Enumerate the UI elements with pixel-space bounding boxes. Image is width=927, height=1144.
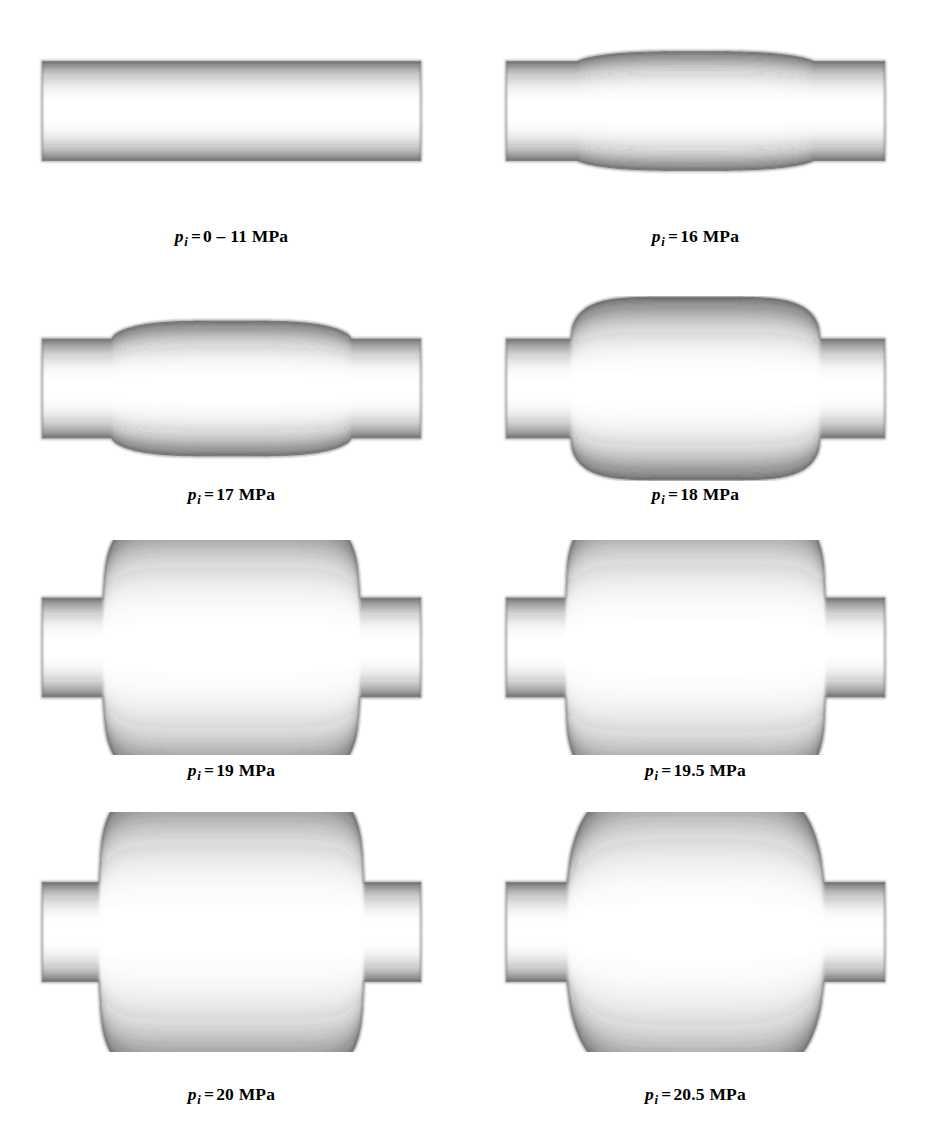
pressure-label-p17: pi=17 MPa <box>0 486 463 506</box>
pressure-unit: MPa <box>239 484 276 504</box>
tube-render-p20 <box>0 812 463 1052</box>
pressure-label-p205: pi=20.5 MPa <box>464 1086 927 1106</box>
pressure-value: 16 <box>680 226 698 246</box>
bulge-panel-p19 <box>0 540 463 755</box>
equals-sign: = <box>667 226 680 246</box>
equals-sign: = <box>190 226 203 246</box>
pressure-symbol: p <box>652 484 661 504</box>
tube-render-p17 <box>0 296 463 481</box>
equals-sign: = <box>203 484 216 504</box>
pressure-unit: MPa <box>703 226 740 246</box>
pressure-symbol: p <box>188 1084 197 1104</box>
tube-stage-p205 <box>464 812 927 1052</box>
tube-render-p18 <box>464 296 927 481</box>
tube-stage-p19 <box>0 540 463 755</box>
tube-stage-p16 <box>464 36 927 186</box>
pressure-label-p16: pi=16 MPa <box>464 228 927 248</box>
pressure-unit: MPa <box>239 760 276 780</box>
bulge-panel-p16 <box>464 36 927 186</box>
pressure-value: 0 – 11 <box>203 226 247 246</box>
tube-render-p205 <box>464 812 927 1052</box>
pressure-value: 17 <box>216 484 234 504</box>
tube-render-p195 <box>464 540 927 755</box>
tube-render-p0 <box>0 36 463 186</box>
tube-stage-p20 <box>0 812 463 1052</box>
pressure-value: 20.5 <box>673 1084 704 1104</box>
pressure-label-p18: pi=18 MPa <box>464 486 927 506</box>
bulge-panel-p0 <box>0 36 463 186</box>
pressure-unit: MPa <box>252 226 289 246</box>
figure-tube-bulge-grid: pi=0 – 11 MPa pi=16 MPa <box>0 0 927 1144</box>
pressure-symbol: p <box>652 226 661 246</box>
equals-sign: = <box>660 760 673 780</box>
pressure-label-p195: pi=19.5 MPa <box>464 762 927 782</box>
tube-stage-p0 <box>0 36 463 186</box>
bulge-panel-p18 <box>464 296 927 481</box>
tube-render-p16 <box>464 36 927 186</box>
bulge-panel-p195 <box>464 540 927 755</box>
pressure-value: 20 <box>216 1084 234 1104</box>
bulge-panel-p20 <box>0 812 463 1052</box>
tube-stage-p195 <box>464 540 927 755</box>
pressure-value: 19.5 <box>673 760 704 780</box>
tube-stage-p17 <box>0 296 463 481</box>
bulge-panel-p205 <box>464 812 927 1052</box>
pressure-value: 18 <box>680 484 698 504</box>
pressure-label-p20: pi=20 MPa <box>0 1086 463 1106</box>
equals-sign: = <box>203 760 216 780</box>
tube-render-p19 <box>0 540 463 755</box>
bulge-panel-p17 <box>0 296 463 481</box>
pressure-unit: MPa <box>703 484 740 504</box>
pressure-symbol: p <box>188 760 197 780</box>
pressure-unit: MPa <box>709 1084 746 1104</box>
pressure-unit: MPa <box>239 1084 276 1104</box>
pressure-label-p19: pi=19 MPa <box>0 762 463 782</box>
equals-sign: = <box>660 1084 673 1104</box>
pressure-symbol: p <box>175 226 184 246</box>
tube-stage-p18 <box>464 296 927 481</box>
pressure-label-p0: pi=0 – 11 MPa <box>0 228 463 248</box>
equals-sign: = <box>667 484 680 504</box>
pressure-unit: MPa <box>709 760 746 780</box>
pressure-symbol: p <box>188 484 197 504</box>
pressure-value: 19 <box>216 760 234 780</box>
equals-sign: = <box>203 1084 216 1104</box>
